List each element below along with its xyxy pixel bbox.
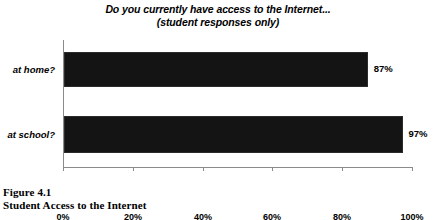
x-axis-tick-100: [412, 167, 413, 171]
x-axis-tick-80: [342, 167, 343, 171]
bar-at-school: [64, 116, 403, 153]
figure-caption: Figure 4.1 Student Access to the Interne…: [3, 186, 147, 211]
x-axis-label-40: 40%: [194, 212, 212, 220]
x-axis-label-60: 60%: [263, 212, 281, 220]
figure-caption-number: Figure 4.1: [3, 186, 147, 199]
x-axis-tick-0: [63, 167, 64, 171]
plot-area: 0% 20% 40% 60% 80% 100% at home? at scho…: [63, 40, 412, 167]
bar-at-home: [64, 52, 368, 87]
x-axis-tick-20: [133, 167, 134, 171]
chart-title-line-1: Do you currently have access to the Inte…: [105, 3, 330, 15]
x-axis-label-0: 0%: [56, 212, 69, 220]
x-axis-label-100: 100%: [400, 212, 423, 220]
figure-student-access-to-the-internet: Do you currently have access to the Inte…: [0, 0, 436, 220]
x-axis-tick-40: [203, 167, 204, 171]
chart-title-line-2: (student responses only): [0, 16, 436, 29]
chart-title: Do you currently have access to the Inte…: [0, 3, 436, 29]
x-axis-label-20: 20%: [124, 212, 142, 220]
figure-caption-text: Student Access to the Internet: [3, 199, 147, 212]
bar-value-at-home: 87%: [374, 63, 393, 74]
category-label-at-home: at home?: [13, 64, 55, 75]
x-axis-tick-60: [272, 167, 273, 171]
category-label-at-school: at school?: [7, 129, 55, 140]
x-axis-label-80: 80%: [333, 212, 351, 220]
x-axis-line: [63, 167, 413, 168]
bar-value-at-school: 97%: [409, 128, 428, 139]
